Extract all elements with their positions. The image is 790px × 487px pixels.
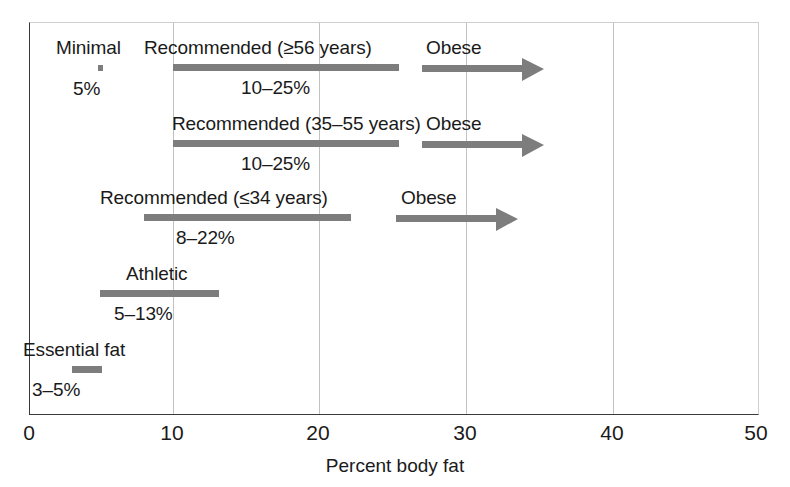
xtick-30: 30 [453,421,476,445]
bar-minimal [98,65,103,71]
row-value-minimal: 5% [73,78,100,99]
xtick-40: 40 [600,421,623,445]
row-label-athletic: Athletic [126,263,188,284]
row-value-essential-fat: 3–5% [32,379,80,400]
row-label-recommended-56-plus: Recommended (≥56 years) [144,37,372,58]
row-label-essential-fat: Essential fat [23,339,125,360]
row-label-recommended-35-55: Recommended (35–55 years) [172,113,421,134]
xtick-10: 10 [160,421,183,445]
obese-arrow-row-2 [422,131,552,165]
bar-recommended-34-minus [144,214,351,221]
row-value-recommended-34-minus: 8–22% [176,227,235,248]
x-axis-title: Percent body fat [0,455,790,477]
row-value-recommended-56-plus: 10–25% [241,77,310,98]
bar-recommended-56-plus [173,64,399,71]
row-label-minimal: Minimal [56,37,121,58]
bar-essential-fat [72,366,102,373]
bar-athletic [100,290,219,297]
xtick-0: 0 [23,421,35,445]
xtick-50: 50 [744,421,767,445]
obese-arrow-row-3 [396,205,526,239]
bar-recommended-35-55 [173,140,399,147]
row-value-athletic: 5–13% [114,303,173,324]
obese-arrow-row-1 [422,55,552,89]
body-fat-range-chart: Minimal 5% Recommended (≥56 years) 10–25… [0,0,790,487]
plot-area: Minimal 5% Recommended (≥56 years) 10–25… [29,22,759,415]
xtick-20: 20 [306,421,329,445]
gridline-40 [613,23,614,414]
row-value-recommended-35-55: 10–25% [241,153,310,174]
row-label-recommended-34-minus: Recommended (≤34 years) [100,187,328,208]
